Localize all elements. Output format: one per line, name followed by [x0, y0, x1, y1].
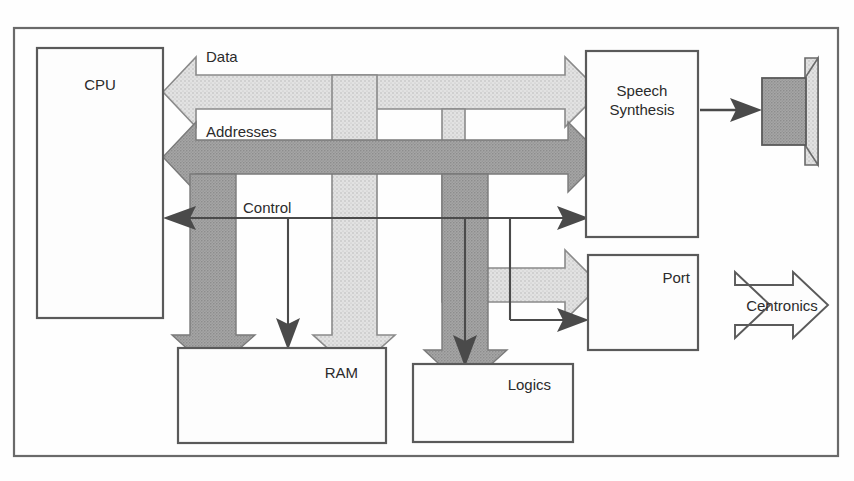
centronics-connector[interactable]: Centronics [735, 272, 828, 338]
system-block-diagram: Data Addresses [0, 0, 854, 481]
logics-block[interactable]: Logics [413, 364, 573, 442]
speaker-body [762, 78, 806, 145]
ram-block[interactable]: RAM [178, 348, 386, 443]
port-label: Port [662, 269, 690, 286]
ram-label: RAM [325, 364, 358, 381]
address-bus-label: Addresses [206, 123, 277, 140]
logics-label: Logics [508, 376, 551, 393]
cpu-label: CPU [84, 76, 116, 93]
speech-synthesis-block[interactable]: Speech Synthesis [586, 51, 698, 237]
speaker-icon [762, 58, 818, 165]
cpu-block[interactable]: CPU [37, 48, 163, 318]
data-bus-label: Data [206, 48, 238, 65]
speaker-link-arrow [700, 98, 762, 122]
data-bus-main-shaft [163, 57, 600, 127]
control-bus-label: Control [243, 199, 291, 216]
speech-synthesis-label-line2: Synthesis [609, 101, 674, 118]
speaker-cone [805, 58, 818, 165]
speech-synthesis-label-line1: Speech [617, 82, 668, 99]
diagram-page: Data Addresses [0, 0, 854, 481]
centronics-label: Centronics [746, 297, 818, 314]
speech-synthesis-box[interactable] [586, 51, 698, 237]
port-block[interactable]: Port [588, 255, 698, 350]
ram-box[interactable] [178, 348, 386, 443]
data-bus-ram-branch [313, 75, 395, 372]
